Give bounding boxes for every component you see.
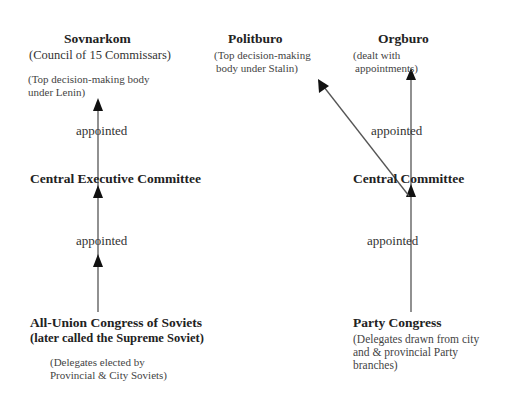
appointed-label-right-lower: appointed	[367, 234, 418, 249]
party-congress-note-line3: branches)	[353, 359, 398, 373]
arrowhead-to-sovnarkom-icon	[93, 98, 103, 111]
party-congress-title: Party Congress	[353, 315, 442, 331]
appointed-label-right-upper: appointed	[371, 124, 422, 139]
orgburo-note-line1: (dealt with	[353, 49, 400, 62]
all-union-congress-note-line1: (Delegates elected by	[50, 356, 145, 369]
party-congress-note-line2: and & provincial Party	[353, 346, 458, 360]
arrowhead-to-cec-icon	[93, 185, 103, 198]
all-union-congress-title: All-Union Congress of Soviets	[30, 315, 202, 331]
all-union-congress-note-line2: Provincial & City Soviets)	[50, 369, 167, 382]
sovnarkom-note-line1: (Top decision-making body	[28, 73, 149, 86]
sovnarkom-note-line2: under Lenin)	[28, 86, 85, 99]
orgburo-note-line2: appointments)	[355, 62, 418, 75]
all-union-congress-subtitle: (later called the Supreme Soviet)	[30, 331, 204, 345]
sovnarkom-subtitle: (Council of 15 Commissars)	[29, 48, 171, 62]
orgburo-title: Orgburo	[378, 31, 429, 47]
central-executive-committee-title: Central Executive Committee	[30, 171, 201, 187]
politburo-note-line2: body under Stalin)	[216, 62, 298, 75]
politburo-note-line1: (Top decision-making	[214, 49, 311, 62]
arrowhead-lower-left-icon	[93, 254, 103, 267]
sovnarkom-title: Sovnarkom	[64, 31, 131, 47]
appointed-label-left-lower: appointed	[76, 234, 127, 249]
politburo-title: Politburo	[228, 31, 283, 47]
appointed-label-left-upper: appointed	[76, 124, 127, 139]
party-congress-note-line1: (Delegates drawn from city	[353, 333, 479, 347]
central-committee-title: Central Committee	[353, 171, 464, 187]
